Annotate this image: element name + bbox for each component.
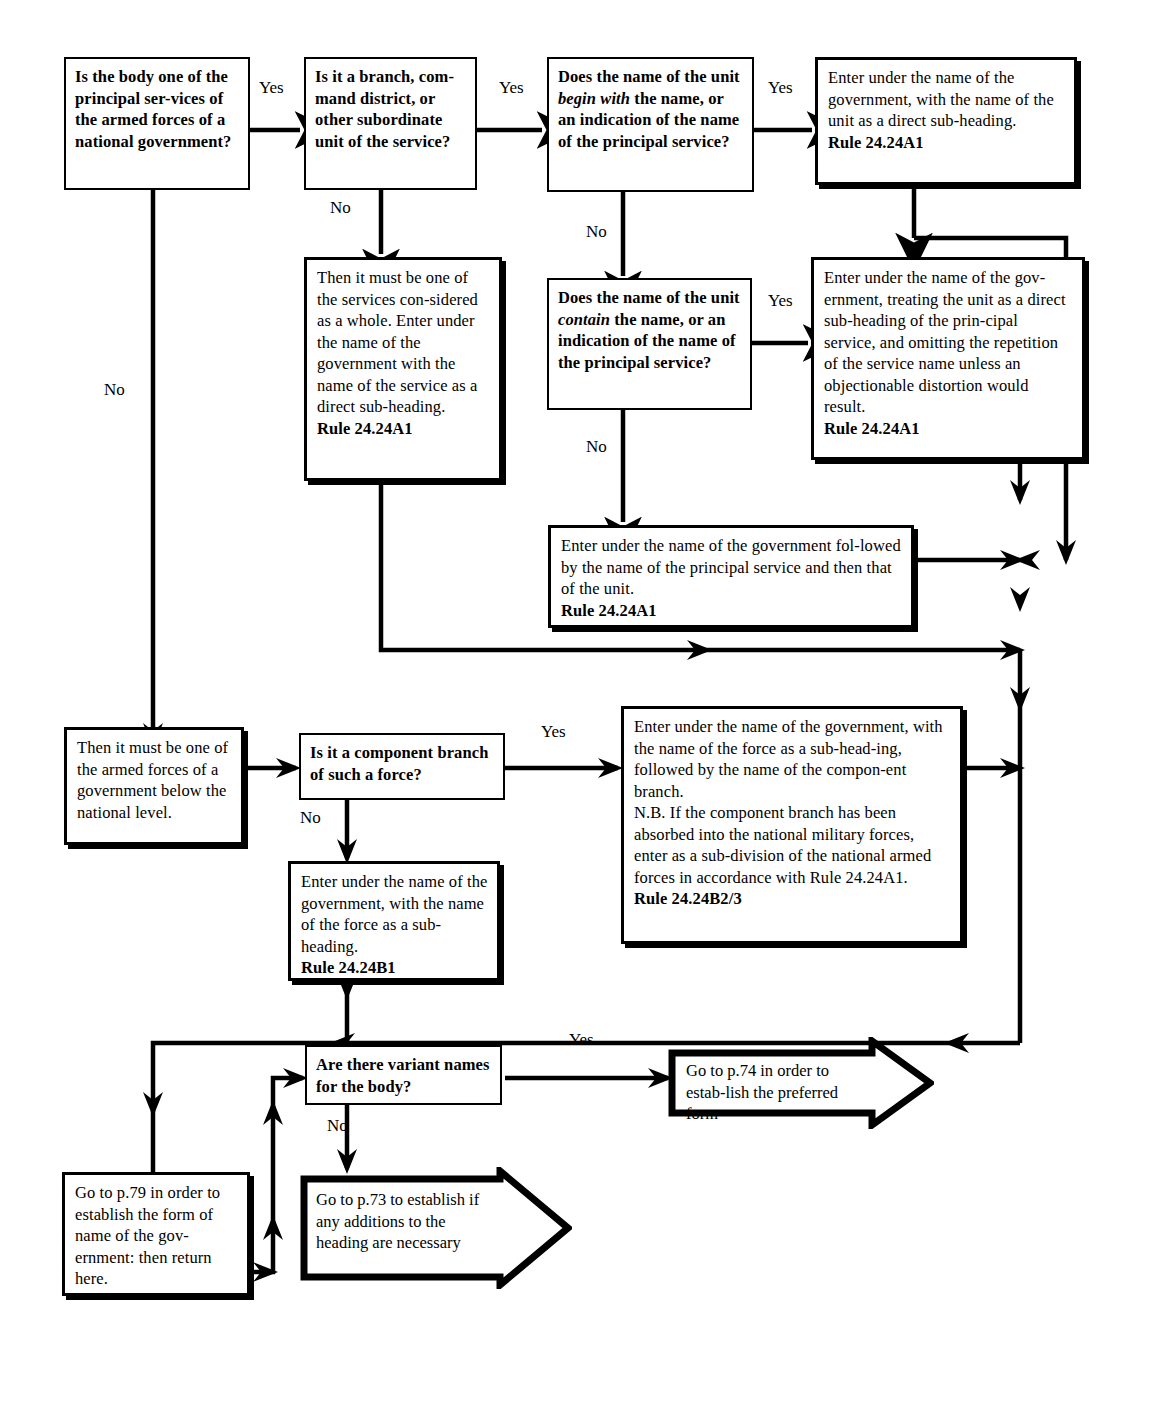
- edge-label-yes-3: Yes: [768, 78, 793, 98]
- q2-text: Is it a branch, com-mand district, or ot…: [315, 66, 467, 152]
- a1-text: Enter under the name of the government, …: [828, 67, 1065, 153]
- edge-label-no-4: No: [586, 437, 607, 457]
- question-variant-names[interactable]: Are there variant names for the body?: [305, 1045, 502, 1105]
- a8-text: Go to p.79 in order to establish the for…: [75, 1182, 238, 1290]
- edge-label-yes-5: Yes: [541, 722, 566, 742]
- edge-label-no-6: No: [327, 1116, 348, 1136]
- action-goto-p79-government-name[interactable]: Go to p.79 in order to establish the for…: [62, 1172, 250, 1296]
- a2-text: Then it must be one of the services con-…: [317, 267, 490, 439]
- action-sub-national-armed-forces[interactable]: Then it must be one of the armed forces …: [64, 727, 244, 845]
- a4-text: Enter under the name of the government f…: [561, 535, 902, 621]
- edge-label-no-1: No: [104, 380, 125, 400]
- question-component-branch[interactable]: Is it a component branch of such a force…: [299, 733, 505, 800]
- question-branch-command-district[interactable]: Is it a branch, com-mand district, or ot…: [304, 57, 477, 190]
- q3-text: Does the name of the unit begin with the…: [558, 66, 744, 152]
- a3-text: Enter under the name of the gov-ernment,…: [824, 267, 1073, 439]
- a3-rule: Rule 24.24A1: [824, 418, 1073, 440]
- action-omit-repetition[interactable]: Enter under the name of the gov-ernment,…: [811, 257, 1085, 460]
- q4-italic: contain: [558, 310, 610, 329]
- a7-rule: Rule 24.24B1: [301, 957, 488, 979]
- action-force-as-subheading[interactable]: Enter under the name of the government, …: [288, 861, 500, 981]
- terminal-goto-p74[interactable]: Go to p.74 in order to estab-lish the pr…: [668, 1037, 934, 1129]
- q4-text: Does the name of the unit contain the na…: [558, 287, 742, 373]
- edge-label-yes-4: Yes: [768, 291, 793, 311]
- terminal-goto-p74-text: Go to p.74 in order to estab-lish the pr…: [686, 1060, 862, 1125]
- question-name-begins-with[interactable]: Does the name of the unit begin with the…: [547, 57, 754, 192]
- a7-text: Enter under the name of the government, …: [301, 871, 488, 979]
- action-government-then-service-then-unit[interactable]: Enter under the name of the government f…: [548, 525, 914, 628]
- q6-text: Are there variant names for the body?: [316, 1054, 492, 1097]
- edge-label-yes-6: Yes: [569, 1030, 594, 1050]
- a2-rule: Rule 24.24A1: [317, 418, 490, 440]
- terminal-goto-p73[interactable]: Go to p.73 to establish if any additions…: [300, 1167, 572, 1289]
- edge-label-no-5: No: [300, 808, 321, 828]
- a5-text: Then it must be one of the armed forces …: [77, 737, 232, 823]
- edge-label-yes-1: Yes: [259, 78, 284, 98]
- a4-rule: Rule 24.24A1: [561, 600, 902, 622]
- edge-label-no-3: No: [586, 222, 607, 242]
- terminal-goto-p73-text: Go to p.73 to establish if any additions…: [316, 1189, 498, 1254]
- a1-rule: Rule 24.24A1: [828, 132, 1065, 154]
- q1-text: Is the body one of the principal ser-vic…: [75, 66, 240, 152]
- edge-label-yes-2: Yes: [499, 78, 524, 98]
- q5-text: Is it a component branch of such a force…: [310, 742, 495, 785]
- q3-italic: begin with: [558, 89, 630, 108]
- flowchart-canvas: Is the body one of the principal ser-vic…: [0, 0, 1170, 1419]
- question-name-contains[interactable]: Does the name of the unit contain the na…: [547, 278, 752, 410]
- action-component-branch-heading[interactable]: Enter under the name of the government, …: [621, 706, 963, 944]
- edge-label-no-2: No: [330, 198, 351, 218]
- action-services-as-whole[interactable]: Then it must be one of the services con-…: [304, 257, 502, 481]
- a6-rule: Rule 24.24B2/3: [634, 888, 951, 910]
- a6-text: Enter under the name of the government, …: [634, 716, 951, 910]
- question-principal-services[interactable]: Is the body one of the principal ser-vic…: [64, 57, 250, 190]
- action-enter-direct-subheading[interactable]: Enter under the name of the government, …: [815, 57, 1077, 185]
